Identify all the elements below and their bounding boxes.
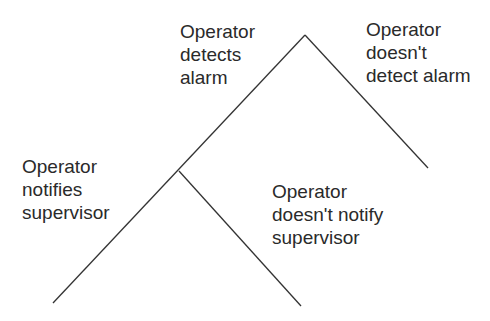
- label-notifies-supervisor: Operator notifies supervisor: [22, 155, 110, 224]
- label-line: Operator: [272, 180, 383, 203]
- label-line: Operator: [180, 20, 255, 43]
- label-detects-alarm: Operator detects alarm: [180, 20, 255, 89]
- label-line: Operator: [366, 18, 471, 41]
- event-tree-diagram: Operator detects alarm Operator doesn't …: [0, 0, 490, 321]
- label-line: doesn't notify: [272, 203, 383, 226]
- label-not-notify-supervisor: Operator doesn't notify supervisor: [272, 180, 383, 249]
- label-line: notifies: [22, 178, 110, 201]
- label-not-detect-alarm: Operator doesn't detect alarm: [366, 18, 471, 87]
- label-line: supervisor: [22, 201, 110, 224]
- label-line: Operator: [22, 155, 110, 178]
- label-line: supervisor: [272, 226, 383, 249]
- label-line: detect alarm: [366, 64, 471, 87]
- label-line: detects: [180, 43, 255, 66]
- label-line: doesn't: [366, 41, 471, 64]
- label-line: alarm: [180, 66, 255, 89]
